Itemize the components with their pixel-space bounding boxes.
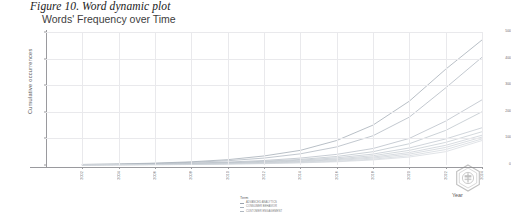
legend-swatch <box>240 207 244 208</box>
y-axis-label: Cumulative occurrences <box>27 48 33 114</box>
x-tick-mark <box>191 167 192 169</box>
series-line <box>82 132 482 165</box>
x-tick-mark <box>337 167 338 169</box>
legend-item[interactable]: CONSUMER BEHAVIOR <box>240 205 360 208</box>
x-tick-mark <box>155 167 156 169</box>
chart-legend: Term ADVANCED ANALYTICSCONSUMER BEHAVIOR… <box>240 196 360 214</box>
legend-label: CONSUMER BEHAVIOR <box>246 205 277 208</box>
legend-label: CUSTOMER ENGAGEMENT <box>246 210 282 213</box>
x-tick-mark <box>119 167 120 169</box>
x-tick-label: 2016 <box>335 171 339 180</box>
legend-title: Term <box>240 196 360 200</box>
chart-container: 5004003002001000 20022004200620082010201… <box>0 26 511 171</box>
x-tick-label: 2008 <box>189 171 193 180</box>
legend-swatch <box>240 211 244 212</box>
gridline-vertical <box>482 32 483 165</box>
x-tick-label: 2020 <box>407 171 411 180</box>
x-tick-label: 2012 <box>262 171 266 180</box>
x-axis-line <box>30 167 482 168</box>
gridline-vertical <box>409 32 410 165</box>
gridline-vertical <box>155 32 156 165</box>
legend-item[interactable]: CUSTOMER ENGAGEMENT <box>240 210 360 213</box>
gridline-vertical <box>337 32 338 165</box>
gridline-vertical <box>373 32 374 165</box>
legend-items: ADVANCED ANALYTICSCONSUMER BEHAVIORCUSTO… <box>240 201 360 213</box>
gridline-vertical <box>191 32 192 165</box>
chart-title: Words' Frequency over Time <box>42 13 176 25</box>
x-tick-mark <box>482 167 483 169</box>
legend-swatch <box>240 203 244 204</box>
x-tick-label: 2018 <box>371 171 375 180</box>
x-tick-label: 2002 <box>80 171 84 180</box>
x-axis-label: Year <box>452 192 463 198</box>
x-tick-mark <box>264 167 265 169</box>
x-tick-label: 2014 <box>298 171 302 180</box>
plot-area <box>46 32 482 165</box>
x-tick-mark <box>409 167 410 169</box>
figure-caption: Figure 10. Word dynamic plot <box>30 0 170 12</box>
x-tick-label: 2022 <box>444 171 448 180</box>
gridline-vertical <box>228 32 229 165</box>
gridline-vertical <box>300 32 301 165</box>
hexagon-watermark-icon <box>455 164 481 192</box>
gridline-vertical <box>446 32 447 165</box>
gridline-vertical <box>119 32 120 165</box>
x-tick-mark <box>228 167 229 169</box>
x-tick-label: 2006 <box>153 171 157 180</box>
x-tick-label: 2010 <box>226 171 230 180</box>
gridline-vertical <box>82 32 83 165</box>
gridline-vertical <box>264 32 265 165</box>
x-tick-mark <box>373 167 374 169</box>
x-tick-mark <box>300 167 301 169</box>
x-tick-label: 2004 <box>117 171 121 180</box>
x-tick-mark <box>446 167 447 169</box>
x-tick-mark <box>82 167 83 169</box>
